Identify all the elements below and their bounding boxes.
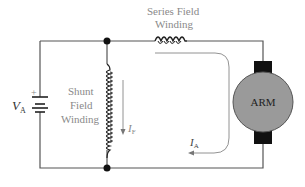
circuit-diagram: + VA Series Field Winding Shunt Field Wi… <box>0 0 305 187</box>
battery-plus-label: + <box>31 87 37 98</box>
junction-top <box>104 38 111 45</box>
supply-voltage-label: VA <box>12 98 26 115</box>
shunt-field-label-2: Field <box>70 99 93 111</box>
armature-current-label: IA <box>189 136 199 150</box>
series-field-coil-icon <box>155 37 187 44</box>
series-field-label-2: Winding <box>155 18 194 30</box>
shunt-field-coil-icon <box>107 64 113 158</box>
shunt-field-label-3: Winding <box>61 113 100 125</box>
field-current-arrow-icon <box>121 80 126 135</box>
battery-icon <box>32 97 48 112</box>
shunt-field-label-1: Shunt <box>68 85 94 97</box>
field-current-label: IF <box>127 122 136 136</box>
series-field-label-1: Series Field <box>147 5 200 17</box>
junction-bottom <box>104 165 111 172</box>
armature-label: ARM <box>250 96 275 108</box>
